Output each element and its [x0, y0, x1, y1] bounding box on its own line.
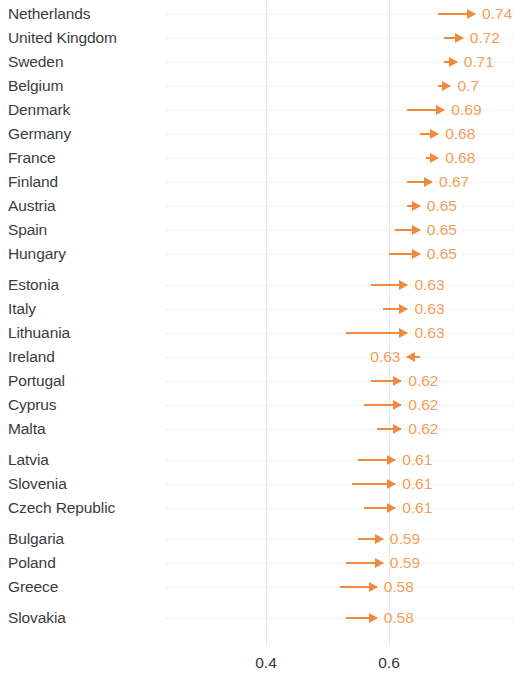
value-arrow-right	[371, 369, 402, 393]
chart-row: Latvia0.61	[0, 448, 514, 472]
value-label: 0.58	[384, 606, 414, 630]
x-axis: 0.40.6	[0, 646, 514, 683]
value-label: 0.63	[370, 345, 400, 369]
value-arrow-right	[407, 98, 444, 122]
value-label: 0.61	[402, 496, 432, 520]
value-label: 0.74	[482, 2, 512, 26]
category-label: Italy	[8, 297, 36, 321]
category-label: Czech Republic	[8, 496, 115, 520]
arrow-head-icon	[430, 129, 439, 139]
value-arrow-right	[426, 146, 438, 170]
value-arrow-right	[371, 273, 408, 297]
value-arrow-right	[340, 575, 377, 599]
chart-row: Estonia0.63	[0, 273, 514, 297]
arrow-head-icon	[406, 352, 415, 362]
value-arrow-right	[438, 2, 475, 26]
chart-row: United Kingdom0.72	[0, 26, 514, 50]
value-arrow-right	[383, 297, 408, 321]
arrow-head-icon	[436, 105, 445, 115]
arrow-head-icon	[424, 177, 433, 187]
value-arrow-right	[407, 194, 419, 218]
value-label: 0.7	[458, 74, 480, 98]
chart-row: Slovenia0.61	[0, 472, 514, 496]
category-label: France	[8, 146, 56, 170]
category-label: Denmark	[8, 98, 70, 122]
value-label: 0.63	[414, 273, 444, 297]
value-label: 0.61	[402, 472, 432, 496]
value-arrow-left	[407, 345, 419, 369]
arrow-head-icon	[399, 304, 408, 314]
value-label: 0.65	[427, 242, 457, 266]
chart-row: Czech Republic0.61	[0, 496, 514, 520]
value-arrow-right	[364, 393, 401, 417]
arrow-head-icon	[442, 81, 451, 91]
value-arrow-right	[407, 170, 432, 194]
value-label: 0.67	[439, 170, 469, 194]
arrow-change-chart: Netherlands0.74United Kingdom0.72Sweden0…	[0, 0, 514, 683]
chart-row: Lithuania0.63	[0, 321, 514, 345]
category-label: United Kingdom	[8, 26, 117, 50]
chart-row: Bulgaria0.59	[0, 527, 514, 551]
value-label: 0.68	[445, 122, 475, 146]
value-label: 0.65	[427, 218, 457, 242]
value-label: 0.61	[402, 448, 432, 472]
category-label: Cyprus	[8, 393, 57, 417]
value-label: 0.62	[408, 417, 438, 441]
category-label: Portugal	[8, 369, 65, 393]
chart-row: Portugal0.62	[0, 369, 514, 393]
chart-row: France0.68	[0, 146, 514, 170]
arrow-head-icon	[455, 33, 464, 43]
chart-row: Netherlands0.74	[0, 2, 514, 26]
x-tick-label: 0.4	[255, 654, 277, 672]
category-label: Spain	[8, 218, 47, 242]
chart-row: Belgium0.7	[0, 74, 514, 98]
arrow-head-icon	[430, 153, 439, 163]
value-arrow-right	[389, 242, 420, 266]
chart-row: Spain0.65	[0, 218, 514, 242]
value-arrow-right	[346, 321, 408, 345]
chart-row: Austria0.65	[0, 194, 514, 218]
arrow-head-icon	[399, 328, 408, 338]
value-label: 0.69	[451, 98, 481, 122]
value-label: 0.62	[408, 369, 438, 393]
category-label: Sweden	[8, 50, 63, 74]
category-label: Poland	[8, 551, 56, 575]
value-arrow-right	[364, 496, 395, 520]
arrow-head-icon	[387, 503, 396, 513]
arrow-head-icon	[412, 201, 421, 211]
arrow-head-icon	[369, 613, 378, 623]
category-label: Greece	[8, 575, 58, 599]
category-label: Belgium	[8, 74, 63, 98]
arrow-head-icon	[412, 249, 421, 259]
value-arrow-right	[358, 448, 395, 472]
category-label: Lithuania	[8, 321, 70, 345]
chart-row: Ireland0.63	[0, 345, 514, 369]
x-tick-label: 0.6	[378, 654, 400, 672]
chart-row: Slovakia0.58	[0, 606, 514, 630]
value-arrow-right	[346, 551, 383, 575]
plot-area: Netherlands0.74United Kingdom0.72Sweden0…	[0, 0, 514, 646]
arrow-head-icon	[387, 455, 396, 465]
arrow-head-icon	[375, 558, 384, 568]
arrow-head-icon	[369, 582, 378, 592]
chart-row: Finland0.67	[0, 170, 514, 194]
value-label: 0.59	[390, 551, 420, 575]
value-arrow-right	[395, 218, 420, 242]
arrow-head-icon	[399, 280, 408, 290]
value-arrow-right	[444, 26, 462, 50]
value-label: 0.63	[414, 321, 444, 345]
category-label: Estonia	[8, 273, 59, 297]
arrow-head-icon	[412, 225, 421, 235]
value-arrow-right	[346, 606, 377, 630]
arrow-head-icon	[467, 9, 476, 19]
value-arrow-right	[377, 417, 402, 441]
value-label: 0.65	[427, 194, 457, 218]
category-label: Slovakia	[8, 606, 66, 630]
arrow-head-icon	[393, 376, 402, 386]
category-label: Austria	[8, 194, 56, 218]
category-label: Latvia	[8, 448, 49, 472]
arrow-head-icon	[375, 534, 384, 544]
value-arrow-right	[420, 122, 438, 146]
chart-row: Germany0.68	[0, 122, 514, 146]
value-label: 0.62	[408, 393, 438, 417]
